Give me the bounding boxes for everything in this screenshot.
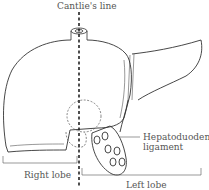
right-lobe-label: Right lobe: [24, 170, 71, 180]
hepatoduodenal-label: Hepatoduodenal: [143, 132, 209, 142]
cantlie-line-label: Cantlie's line: [57, 1, 117, 11]
right-lobe-bracket: [3, 156, 77, 163]
left-lobe-outline: [120, 40, 202, 132]
right-lobe-outline: [4, 40, 132, 152]
left-lobe-label: Left lobe: [126, 180, 167, 190]
liver-diagram: [0, 0, 209, 190]
left-lobe-bracket: [82, 168, 201, 175]
gallbladder-dashed: [66, 100, 101, 147]
ligament-label: ligament: [143, 142, 183, 152]
hepatoduodenal-ligament: [92, 126, 127, 175]
